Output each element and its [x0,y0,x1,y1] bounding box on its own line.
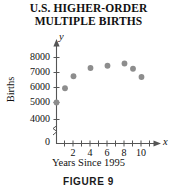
data-point [71,73,77,79]
data-point [122,61,128,67]
data-point [130,66,136,72]
data-point [139,74,145,80]
y-tick-label-0: 0 [14,136,50,147]
y-axis-variable-label: y [59,31,64,42]
figure-caption: FIGURE 9 [0,176,177,187]
x-axis-arrowhead [154,140,162,146]
data-point [88,65,94,71]
data-point [62,85,68,91]
y-tick-label-4000: 4000 [14,113,50,124]
data-point [54,100,60,106]
x-axis-title: Years Since 1995 [0,157,177,168]
y-tick-label-7000: 7000 [14,66,50,77]
y-axis-title: Births [5,62,16,118]
x-axis-variable-label: x [163,136,168,147]
y-tick-label-8000: 8000 [14,51,50,62]
y-tick-label-5000: 5000 [14,96,50,107]
data-points [54,61,145,106]
data-point [105,63,111,69]
y-tick-label-6000: 6000 [14,81,50,92]
figure-container: U.S. HIGHER-ORDER MULTIPLE BIRTHS [0,0,177,192]
